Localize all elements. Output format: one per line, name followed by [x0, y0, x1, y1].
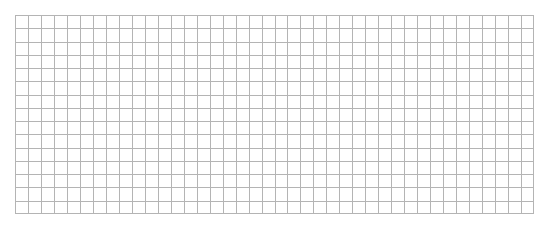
grid-paper [15, 15, 534, 214]
grid-lines [15, 15, 534, 214]
